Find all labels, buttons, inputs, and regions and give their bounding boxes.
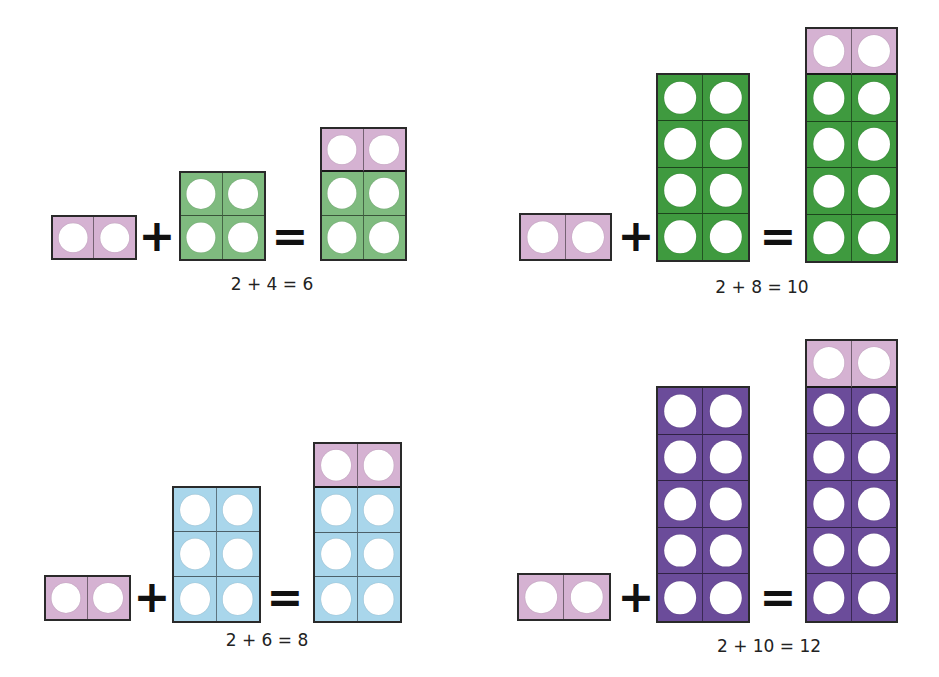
plus-sign: + — [134, 575, 171, 619]
peg-hole-icon — [709, 581, 741, 615]
peg-hole-icon — [664, 534, 696, 567]
rod-cell — [564, 575, 609, 619]
equation-label: 2 + 4 = 6 — [231, 274, 314, 294]
rod-cell — [703, 388, 748, 435]
peg-hole-icon — [321, 450, 351, 480]
rod-cell — [658, 574, 703, 621]
rod-cell — [217, 488, 260, 532]
sum-rod — [320, 127, 407, 261]
equals-sign: = — [760, 214, 797, 258]
rod-cell — [852, 122, 897, 168]
rod-cell — [94, 217, 135, 258]
addend-b-rod — [656, 386, 750, 623]
peg-hole-icon — [664, 220, 696, 253]
peg-hole-icon — [813, 128, 844, 161]
peg-hole-icon — [858, 441, 890, 474]
peg-hole-icon — [369, 135, 399, 165]
rod-cell — [703, 481, 748, 528]
plus-sign: + — [139, 214, 176, 258]
rod-cell — [852, 434, 897, 481]
peg-hole-icon — [709, 534, 741, 567]
addend-a-rod — [44, 575, 131, 621]
rod-cell — [852, 341, 897, 388]
peg-hole-icon — [664, 128, 696, 161]
rod-cell — [223, 173, 265, 216]
rod-cell — [217, 577, 260, 621]
rod-cell — [807, 574, 852, 621]
rod-cell — [703, 121, 748, 167]
rod-cell — [807, 122, 852, 168]
sum-rod — [805, 339, 898, 623]
peg-hole-icon — [59, 223, 88, 253]
rod-cell — [315, 577, 358, 621]
rod-cell — [807, 528, 852, 575]
rod-cell — [658, 481, 703, 528]
rod-cell — [358, 488, 401, 532]
addend-b-rod — [172, 486, 261, 623]
equals-sign: = — [272, 214, 309, 258]
rod-cell — [358, 533, 401, 577]
peg-hole-icon — [369, 222, 399, 253]
peg-hole-icon — [858, 487, 890, 520]
peg-hole-icon — [93, 583, 123, 613]
rod-cell — [658, 214, 703, 260]
peg-hole-icon — [858, 35, 890, 67]
rod-cell — [322, 172, 364, 215]
peg-hole-icon — [813, 534, 844, 567]
peg-hole-icon — [813, 487, 844, 520]
peg-hole-icon — [664, 581, 696, 615]
rod-cell — [703, 435, 748, 482]
peg-hole-icon — [328, 178, 357, 208]
equation-label: 2 + 10 = 12 — [717, 636, 821, 656]
sum-rod — [805, 27, 898, 263]
peg-hole-icon — [813, 347, 844, 379]
rod-cell — [322, 129, 364, 172]
rod-cell — [658, 435, 703, 482]
plus-sign: + — [618, 575, 655, 619]
peg-hole-icon — [321, 539, 351, 570]
rod-cell — [852, 29, 897, 75]
rod-cell — [364, 129, 406, 172]
peg-hole-icon — [527, 221, 558, 253]
peg-hole-icon — [664, 81, 696, 114]
peg-hole-icon — [222, 494, 253, 525]
rod-cell — [53, 217, 94, 258]
rod-cell — [852, 574, 897, 621]
rod-cell — [174, 577, 217, 621]
peg-hole-icon — [858, 347, 890, 379]
rod-cell — [322, 216, 364, 259]
peg-hole-icon — [328, 222, 357, 253]
peg-hole-icon — [858, 82, 890, 115]
rod-cell — [519, 575, 564, 619]
rod-cell — [315, 533, 358, 577]
rod-cell — [807, 434, 852, 481]
rod-cell — [358, 577, 401, 621]
rod-cell — [566, 215, 611, 259]
peg-hole-icon — [858, 581, 890, 615]
sum-rod — [313, 442, 402, 623]
addend-b-rod — [656, 73, 750, 262]
rod-cell — [364, 216, 406, 259]
peg-hole-icon — [858, 221, 890, 254]
rod-cell — [807, 215, 852, 261]
peg-hole-icon — [222, 583, 253, 615]
peg-hole-icon — [813, 394, 844, 427]
peg-hole-icon — [328, 135, 357, 165]
peg-hole-icon — [369, 178, 399, 208]
peg-hole-icon — [813, 221, 844, 254]
rod-cell — [703, 214, 748, 260]
peg-hole-icon — [709, 128, 741, 161]
addend-a-rod — [517, 573, 611, 621]
peg-hole-icon — [363, 450, 394, 480]
rod-cell — [315, 444, 358, 488]
rod-cell — [217, 532, 260, 576]
peg-hole-icon — [664, 394, 696, 427]
rod-cell — [658, 528, 703, 575]
peg-hole-icon — [709, 394, 741, 427]
peg-hole-icon — [813, 175, 844, 208]
rod-cell — [807, 29, 852, 75]
rod-cell — [181, 173, 223, 216]
peg-hole-icon — [813, 82, 844, 115]
peg-hole-icon — [363, 583, 394, 615]
peg-hole-icon — [572, 221, 604, 253]
